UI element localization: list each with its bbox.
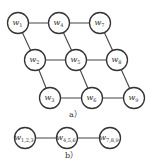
node-w5: w5 — [66, 50, 87, 71]
node-w6: w6 — [82, 88, 103, 109]
node-w3: w3 — [40, 88, 61, 109]
graph-diagram: w1w4w7w2w5w8w3w6w9 a） w1,2,3w4,5,6w7,8,9… — [0, 0, 149, 163]
node-w789: w7,8,9 — [99, 128, 120, 149]
diagram-b-nodes: w1,2,3w4,5,6w7,8,9 — [14, 128, 120, 149]
node-w456: w4,5,6 — [56, 128, 77, 149]
diagram-a-caption: a） — [69, 110, 82, 119]
node-w7: w7 — [90, 13, 111, 34]
node-w8: w8 — [107, 50, 128, 71]
node-w1: w1 — [8, 13, 29, 34]
node-w2: w2 — [25, 50, 46, 71]
diagram-a-nodes: w1w4w7w2w5w8w3w6w9 — [8, 13, 145, 109]
diagram-b-caption: b） — [65, 151, 78, 160]
node-w123: w1,2,3 — [14, 128, 35, 149]
node-w4: w4 — [49, 13, 70, 34]
node-w9: w9 — [124, 88, 145, 109]
